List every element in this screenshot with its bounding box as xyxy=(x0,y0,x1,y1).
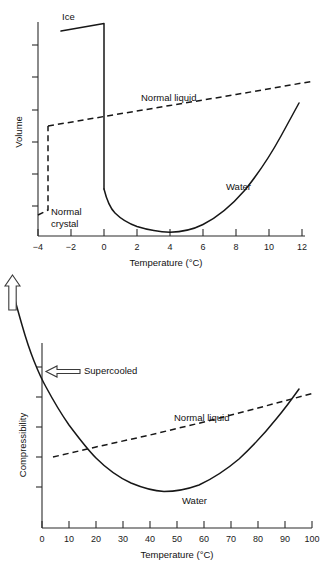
compressibility-chart-svg: 0 10 20 30 40 50 60 70 80 90 100 Tempera… xyxy=(0,275,333,570)
water-anomalies-figure: −4 −2 0 2 4 6 8 10 12 Temperature (°C) V… xyxy=(0,0,333,570)
volume-chart-panel: −4 −2 0 2 4 6 8 10 12 Temperature (°C) V… xyxy=(0,0,333,285)
compressibility-y-ticks xyxy=(36,367,42,487)
compressibility-xtick-label-4: 40 xyxy=(145,534,155,544)
volume-xtick-label-5: 6 xyxy=(200,242,205,252)
compressibility-xtick-label-5: 50 xyxy=(172,534,182,544)
ice-label: Ice xyxy=(62,11,75,22)
volume-xtick-label-6: 8 xyxy=(233,242,238,252)
supercooled-up-arrow-icon xyxy=(5,275,20,310)
compressibility-xtick-label-8: 80 xyxy=(253,534,263,544)
compressibility-x-axis-title: Temperature (°C) xyxy=(141,549,214,560)
supercooled-left-arrow-icon xyxy=(46,366,80,377)
volume-xtick-label-8: 12 xyxy=(297,242,307,252)
volume-normal-liquid-curve xyxy=(48,81,314,126)
volume-xtick-label-0: −4 xyxy=(33,242,43,252)
volume-normal-liquid-label: Normal liquid xyxy=(141,92,196,103)
volume-y-ticks xyxy=(32,45,38,206)
water-compressibility-curve xyxy=(11,285,299,492)
compressibility-xtick-label-2: 20 xyxy=(91,534,101,544)
volume-xtick-label-7: 10 xyxy=(264,242,274,252)
compressibility-y-axis-title: Compressibility xyxy=(17,413,28,478)
volume-xtick-label-2: 0 xyxy=(101,242,106,252)
water-volume-curve xyxy=(104,103,299,232)
ice-curve xyxy=(61,24,104,190)
normal-crystal-label-line2: crystal xyxy=(51,218,78,229)
compressibility-xtick-label-7: 70 xyxy=(226,534,236,544)
compressibility-normal-liquid-curve xyxy=(53,393,314,457)
compressibility-normal-liquid-label: Normal liquid xyxy=(174,412,229,423)
volume-xtick-label-4: 4 xyxy=(167,242,172,252)
compressibility-xtick-label-3: 30 xyxy=(118,534,128,544)
water-volume-label: Water xyxy=(226,181,251,192)
normal-crystal-curve xyxy=(38,126,48,215)
volume-x-axis-title: Temperature (°C) xyxy=(130,257,203,268)
compressibility-xtick-label-1: 10 xyxy=(64,534,74,544)
compressibility-x-ticks xyxy=(42,521,312,528)
volume-chart-svg: −4 −2 0 2 4 6 8 10 12 Temperature (°C) V… xyxy=(0,0,333,285)
compressibility-xtick-label-10: 100 xyxy=(304,534,319,544)
compressibility-xtick-label-0: 0 xyxy=(39,534,44,544)
normal-crystal-label-line1: Normal xyxy=(51,206,82,217)
water-compressibility-label: Water xyxy=(182,495,207,506)
volume-xtick-label-1: −2 xyxy=(66,242,76,252)
compressibility-xtick-label-6: 60 xyxy=(199,534,209,544)
compressibility-xtick-label-9: 90 xyxy=(280,534,290,544)
volume-xtick-label-3: 2 xyxy=(134,242,139,252)
compressibility-chart-panel: 0 10 20 30 40 50 60 70 80 90 100 Tempera… xyxy=(0,275,333,570)
supercooled-label: Supercooled xyxy=(84,365,137,376)
volume-y-axis-title: Volume xyxy=(13,116,24,148)
